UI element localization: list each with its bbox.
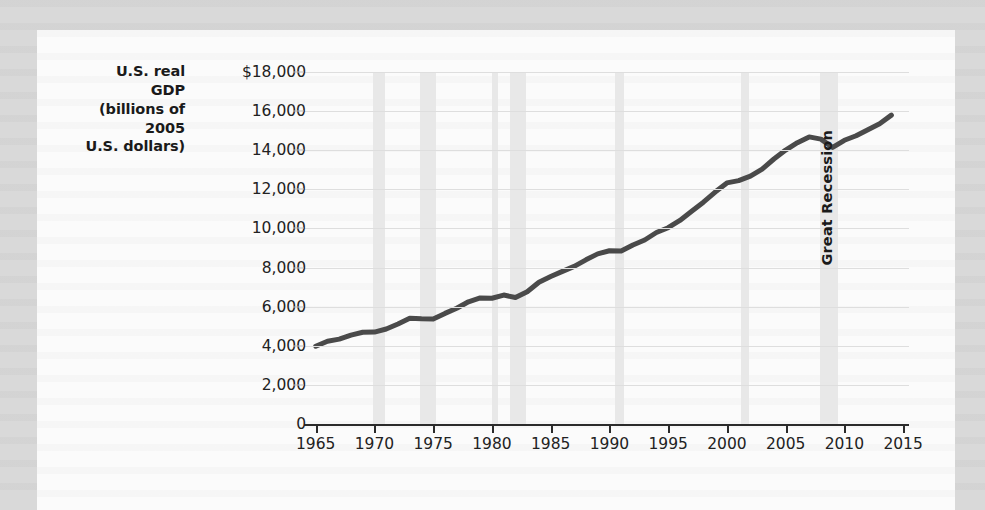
x-tick-mark — [433, 424, 435, 433]
x-tick-label: 2000 — [707, 435, 746, 453]
x-tick-mark — [492, 424, 494, 433]
y-tick-label: 0 — [156, 415, 306, 433]
gridline — [304, 72, 909, 73]
y-tick-label: 6,000 — [156, 298, 306, 316]
y-tick-label: 2,000 — [156, 376, 306, 394]
x-tick-label: 1970 — [355, 435, 394, 453]
y-tick-label: 16,000 — [156, 102, 306, 120]
x-tick-mark — [609, 424, 611, 433]
x-tick-label: 1965 — [296, 435, 335, 453]
y-tick-label: 4,000 — [156, 337, 306, 355]
y-tick-mark — [293, 189, 304, 190]
y-tick-label: 8,000 — [156, 259, 306, 277]
figure-panel: U.S. real GDP (billions of 2005 U.S. dol… — [37, 30, 955, 510]
x-tick-mark — [786, 424, 788, 433]
y-tick-mark — [293, 111, 304, 112]
x-tick-label: 1975 — [413, 435, 452, 453]
great-recession-annotation: Great Recession — [819, 130, 835, 266]
x-tick-mark — [727, 424, 729, 433]
y-tick-label: 12,000 — [156, 180, 306, 198]
x-tick-mark — [903, 424, 905, 433]
x-tick-label: 1990 — [590, 435, 629, 453]
x-tick-mark — [551, 424, 553, 433]
y-tick-mark — [293, 384, 304, 385]
gridline — [304, 111, 909, 112]
x-tick-label: 2015 — [883, 435, 922, 453]
y-tick-mark — [293, 150, 304, 151]
y-tick-mark — [293, 228, 304, 229]
y-tick-mark — [293, 72, 304, 73]
y-tick-label: 10,000 — [156, 219, 306, 237]
gridline — [304, 268, 909, 269]
chart-area: 02,0004,0006,0008,00010,00012,00014,0001… — [197, 66, 919, 464]
x-tick-label: 1985 — [531, 435, 570, 453]
y-tick-mark — [293, 267, 304, 268]
gridline — [304, 385, 909, 386]
y-tick-label: $18,000 — [156, 63, 306, 81]
y-tick-mark — [293, 345, 304, 346]
y-tick-label: 14,000 — [156, 141, 306, 159]
y-tick-mark — [293, 306, 304, 307]
x-tick-label: 2010 — [825, 435, 864, 453]
gridline — [304, 346, 909, 347]
x-tick-label: 1980 — [472, 435, 511, 453]
x-tick-mark — [668, 424, 670, 433]
gridline — [304, 307, 909, 308]
x-axis-line — [304, 424, 909, 426]
x-tick-mark — [316, 424, 318, 433]
x-tick-label: 1995 — [648, 435, 687, 453]
x-tick-label: 2005 — [766, 435, 805, 453]
x-tick-mark — [374, 424, 376, 433]
x-tick-mark — [844, 424, 846, 433]
